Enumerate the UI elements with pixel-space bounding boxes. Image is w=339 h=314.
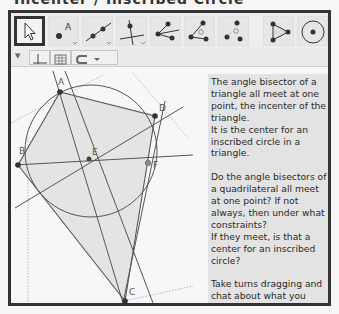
grid-icon <box>51 53 70 66</box>
svg-text:A: A <box>58 77 65 87</box>
quadrilateral-abcd <box>18 92 155 301</box>
polygon-tool-button[interactable] <box>263 16 294 46</box>
line-through-points-icon <box>83 17 114 47</box>
magnet-icon <box>72 53 117 66</box>
point-icon: A <box>49 17 80 47</box>
point-f <box>145 160 151 166</box>
toolbar: A <box>11 13 328 49</box>
angle-bisector-tool-button[interactable] <box>184 16 215 46</box>
angle-icon <box>219 17 250 47</box>
stylebar-toggle-icon[interactable]: ▼ <box>15 52 20 60</box>
axes-icon <box>30 53 49 66</box>
triangle-polygon-icon <box>264 17 295 47</box>
segment-tool-button[interactable] <box>150 16 181 46</box>
geogebra-applet: A <box>8 10 331 306</box>
perpendicular-line-tool-button[interactable] <box>116 16 147 46</box>
segments-from-point-icon <box>151 17 182 47</box>
grid-toggle-button[interactable] <box>50 50 71 65</box>
axes-toggle-button[interactable] <box>29 50 50 65</box>
paragraph-incenter: The angle bisector of a triangle all mee… <box>211 76 326 158</box>
angle-bisector-icon <box>185 17 216 47</box>
point-capture-dropdown[interactable] <box>71 50 118 65</box>
perpendicular-line-icon <box>117 17 148 47</box>
paragraph-instructions: Take turns dragging and chat about what … <box>211 278 322 306</box>
svg-text:B: B <box>19 146 25 156</box>
svg-text:A: A <box>65 22 72 32</box>
page-title: Incenter / Inscribed Circle <box>14 0 244 7</box>
svg-text:E: E <box>92 147 98 157</box>
svg-text:D: D <box>159 103 166 113</box>
cursor-arrow-icon <box>17 19 42 43</box>
instructions-text-box: The angle bisector of a triangle all mee… <box>208 74 328 303</box>
point-d <box>152 113 158 119</box>
svg-text:F: F <box>153 160 158 170</box>
circle-center-icon <box>298 17 329 47</box>
point-tool-button[interactable]: A <box>48 16 79 46</box>
point-a <box>57 89 63 95</box>
style-bar: ▼ <box>11 49 328 67</box>
move-tool-button[interactable] <box>14 16 45 46</box>
paragraph-question: Do the angle bisectors of a quadrilatera… <box>211 171 326 265</box>
circle-tool-button[interactable] <box>297 16 328 46</box>
point-e <box>87 157 92 162</box>
point-b <box>15 162 21 168</box>
line-tool-button[interactable] <box>82 16 113 46</box>
angle-tool-button[interactable] <box>218 16 249 46</box>
svg-text:C: C <box>129 287 135 297</box>
